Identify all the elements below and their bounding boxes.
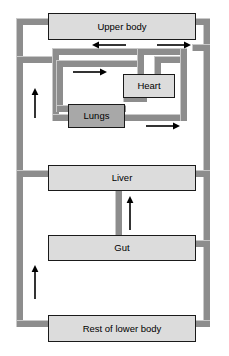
circulatory-system-diagram: Upper bodyHeartLungsLiverGutRest of lowe…: [0, 0, 229, 356]
flow-arrow-pulmonary-artery-arrow: [73, 67, 107, 76]
organ-box-lungs[interactable]: Lungs: [68, 104, 125, 128]
organ-label-gut: Gut: [114, 243, 129, 253]
flow-arrow-vena-cava-upper-arrow: [30, 88, 39, 118]
vessel-heart-inflow-right: [137, 48, 144, 76]
vessel-left-trunk-to-upper-body: [16, 18, 52, 25]
organ-box-liver[interactable]: Liver: [48, 165, 196, 191]
vessel-left-trunk-to-liver: [16, 170, 52, 177]
vessel-pulmonary-outer-right: [180, 48, 187, 121]
vessel-left-trunk-to-pulmonary: [16, 56, 56, 63]
organ-label-liver: Liver: [112, 173, 133, 183]
vessel-liver-to-gut: [115, 189, 122, 237]
flow-arrow-vena-cava-lower-arrow: [30, 265, 39, 299]
flow-arrow-hepatic-portal-arrow: [125, 196, 134, 230]
organ-label-heart: Heart: [137, 81, 160, 91]
vessel-left-trunk-to-lower-body: [16, 320, 52, 327]
vessel-pulmonary-outer-top: [52, 48, 187, 55]
organ-label-upper_body: Upper body: [97, 22, 146, 32]
organ-box-heart[interactable]: Heart: [123, 74, 175, 98]
vessel-heart-outflow-top: [154, 56, 180, 63]
flow-arrow-pulmonary-vein-arrow: [146, 121, 180, 130]
organ-label-rest_of_lower_body: Rest of lower body: [83, 324, 162, 334]
flow-arrow-upper-body-supply-arrow: [157, 40, 191, 49]
flow-arrow-upper-body-return-arrow: [92, 40, 126, 49]
organ-box-rest_of_lower_body[interactable]: Rest of lower body: [48, 315, 196, 342]
organ-label-lungs: Lungs: [84, 111, 110, 121]
vessel-pulmonary-inner-top: [56, 60, 144, 67]
vessel-right-trunk-to-aortic-arch: [192, 44, 210, 51]
organ-box-gut[interactable]: Gut: [48, 235, 196, 261]
organ-box-upper_body[interactable]: Upper body: [48, 13, 196, 40]
